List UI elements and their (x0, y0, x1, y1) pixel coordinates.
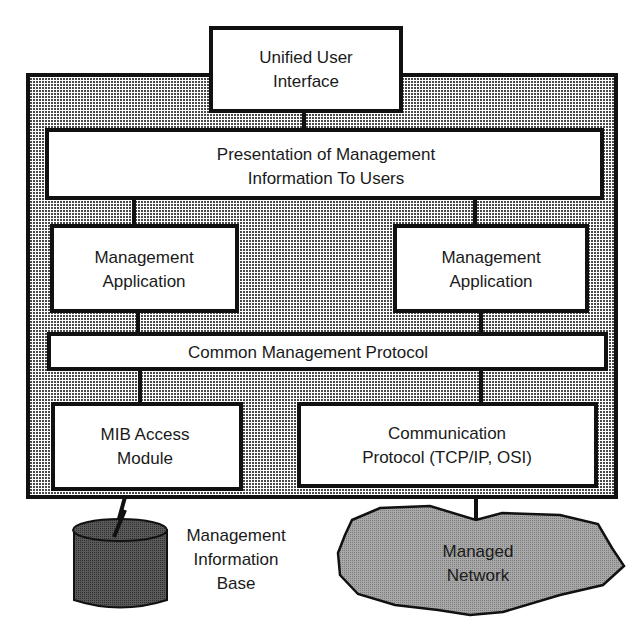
management-application-right-box: Management Application (395, 226, 587, 311)
architecture-diagram: Unified User Interface Presentation of M… (0, 0, 641, 635)
svg-text:Module: Module (117, 449, 173, 468)
mib-access-module-box: MIB Access Module (53, 404, 241, 489)
svg-text:Information To Users: Information To Users (248, 169, 405, 188)
svg-text:Information: Information (193, 550, 278, 569)
svg-text:Interface: Interface (273, 72, 339, 91)
common-management-protocol-box: Common Management Protocol (49, 334, 606, 369)
database-cylinder-icon (73, 510, 167, 608)
svg-text:Management: Management (186, 526, 286, 545)
svg-text:Protocol (TCP/IP, OSI): Protocol (TCP/IP, OSI) (362, 448, 532, 467)
svg-text:Communication: Communication (388, 424, 506, 443)
presentation-box: Presentation of Management Information T… (47, 130, 602, 198)
management-information-base-label: Management Information Base (186, 526, 286, 593)
svg-text:Base: Base (217, 574, 256, 593)
svg-text:MIB Access: MIB Access (101, 425, 190, 444)
communication-protocol-box: Communication Protocol (TCP/IP, OSI) (299, 404, 596, 486)
svg-text:Application: Application (102, 272, 185, 291)
management-application-left-box: Management Application (52, 226, 237, 311)
svg-text:Presentation of Management: Presentation of Management (217, 145, 436, 164)
svg-text:Network: Network (447, 566, 510, 585)
svg-text:Management: Management (441, 248, 541, 267)
cloud-icon: Managed Network (338, 506, 624, 615)
svg-text:Management: Management (94, 248, 194, 267)
svg-text:Common Management Protocol: Common Management Protocol (188, 343, 428, 362)
svg-text:Application: Application (449, 272, 532, 291)
svg-text:Managed: Managed (443, 542, 514, 561)
unified-user-interface-box: Unified User Interface (211, 28, 401, 111)
svg-text:Unified User: Unified User (259, 48, 353, 67)
